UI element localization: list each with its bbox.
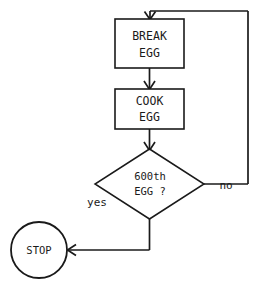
break-egg-box[interactable]	[115, 19, 184, 68]
break-egg-label-line2: EGG	[139, 46, 160, 60]
break-egg-label-line1: BREAK	[132, 29, 167, 43]
edge-break-to-cook	[144, 68, 155, 90]
node-break-egg[interactable]: BREAK EGG	[115, 19, 184, 68]
edge-label-yes: yes	[87, 196, 107, 209]
edge-label-no: no	[219, 179, 232, 192]
node-decision-600th-egg[interactable]: 600th EGG ?	[95, 149, 204, 219]
cook-egg-label-line1: COOK	[136, 94, 164, 108]
edge-cook-to-decision	[144, 129, 155, 151]
edge-yes-to-stop	[68, 219, 150, 256]
decision-label-line1: 600th	[134, 170, 166, 182]
node-stop[interactable]: STOP	[11, 222, 67, 278]
cook-egg-label-line2: EGG	[139, 110, 160, 124]
flowchart-canvas: BREAK EGG COOK EGG 600th EGG ? no yes	[0, 0, 256, 281]
stop-label: STOP	[26, 244, 51, 256]
decision-diamond[interactable]	[95, 149, 204, 219]
flowchart-diagram: BREAK EGG COOK EGG 600th EGG ? no yes	[0, 0, 256, 281]
decision-label-line2: EGG ?	[134, 185, 166, 197]
node-cook-egg[interactable]: COOK EGG	[115, 89, 184, 129]
